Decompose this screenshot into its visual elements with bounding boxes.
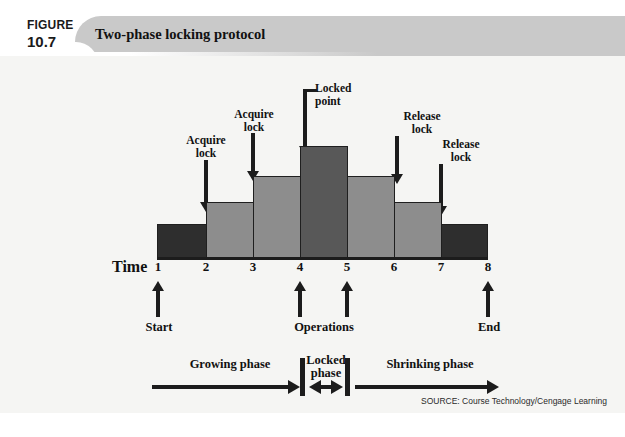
phase-arrowhead-locked-right <box>331 380 343 394</box>
bar-segment-2 <box>206 202 254 258</box>
figure-label: FIGURE <box>27 18 74 32</box>
callout-acquire-lock-1: Acquire lock <box>170 134 242 159</box>
tick-label-8: 8 <box>480 259 496 275</box>
phase-label-shrinking: Shrinking phase <box>360 358 500 371</box>
axis-time-label: Time <box>112 258 147 276</box>
figure-title: Two-phase locking protocol <box>95 26 265 43</box>
tick-label-7: 7 <box>433 259 449 275</box>
phase-label-locked: Locked phase <box>305 354 347 380</box>
tick-label-2: 2 <box>198 259 214 275</box>
callout-release-lock-1: Release lock <box>386 110 458 135</box>
tick-label-5: 5 <box>339 259 355 275</box>
figure-container: FIGURE 10.7 Two-phase locking protocol A… <box>0 0 625 437</box>
bar-segment-3 <box>253 176 301 258</box>
phase-divider-right <box>345 358 350 396</box>
phase-line-growing <box>152 385 288 389</box>
tick-label-1: 1 <box>150 259 166 275</box>
callout-release-lock-2: Release lock <box>425 138 497 163</box>
axis-note-start: Start <box>134 320 184 335</box>
phase-arrowhead-shrinking <box>487 380 499 394</box>
bar-segment-5 <box>347 176 395 258</box>
callout-locked-point: Locked point <box>315 82 377 107</box>
tick-label-3: 3 <box>245 259 261 275</box>
bar-segment-6 <box>394 202 442 258</box>
bar-segment-1 <box>157 224 207 258</box>
callout-acquire-lock-2: Acquire lock <box>218 108 290 133</box>
phase-label-growing: Growing phase <box>160 358 300 371</box>
axis-note-end: End <box>464 320 514 335</box>
bar-segment-7 <box>441 224 488 258</box>
source-attribution: SOURCE: Course Technology/Cengage Learni… <box>421 396 607 406</box>
figure-header: FIGURE 10.7 Two-phase locking protocol <box>0 8 625 56</box>
figure-number: 10.7 <box>27 33 56 50</box>
phase-arrowhead-growing <box>288 380 300 394</box>
phase-line-shrinking <box>355 385 487 389</box>
tick-label-6: 6 <box>386 259 402 275</box>
bar-segment-4-locked <box>300 146 348 258</box>
axis-note-operations: Operations <box>284 320 364 335</box>
phase-line-locked <box>320 385 331 389</box>
tick-label-4: 4 <box>292 259 308 275</box>
